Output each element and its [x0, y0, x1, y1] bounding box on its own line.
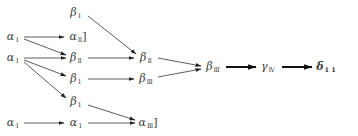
node-subscript: Ⅲ — [147, 78, 153, 86]
node-symbol: δ — [316, 60, 323, 73]
diagram-node: β1 — [70, 96, 82, 109]
diagram-node: α1 — [70, 117, 83, 130]
node-subscript: Ⅲ — [214, 66, 220, 74]
node-bracket: ] — [82, 30, 86, 43]
node-symbol: β — [70, 6, 76, 19]
node-symbol: β — [139, 72, 145, 85]
diagram-node: γⅣ — [261, 61, 275, 74]
diagram-node: βⅡ — [140, 52, 152, 65]
node-symbol: α — [7, 116, 14, 129]
diagram-node: α1 — [7, 52, 20, 65]
node-symbol: α — [138, 116, 145, 129]
diagram-node: αⅡ] — [69, 31, 86, 44]
diagram-node: δ1 1 — [316, 61, 336, 74]
node-subscript: 1 — [78, 78, 82, 86]
diagram-node: β1 — [70, 73, 82, 86]
edge-arrow — [88, 105, 135, 120]
node-subscript: 1 — [78, 122, 82, 130]
node-symbol: β — [70, 72, 76, 85]
node-subscript: 1 — [78, 12, 82, 20]
node-subscript: Ⅳ — [269, 66, 276, 74]
node-subscript: Ⅱ — [147, 57, 151, 65]
node-symbol: α — [70, 116, 77, 129]
edge-arrow — [158, 69, 201, 77]
node-symbol: β — [70, 51, 76, 64]
node-subscript: Ⅱ — [77, 57, 81, 65]
node-symbol: γ — [261, 60, 268, 73]
edge-arrow — [88, 16, 136, 54]
node-subscript: 1 — [78, 101, 82, 109]
diagram-node: βⅢ — [139, 73, 153, 86]
diagram-node: αⅢ] — [138, 117, 157, 130]
diagram-node: βⅡ — [70, 52, 82, 65]
edge-arrow — [158, 58, 201, 66]
node-subscript: 1 1 — [325, 66, 336, 74]
edge-arrow — [24, 39, 66, 55]
node-subscript: 1 — [15, 36, 19, 44]
diagram-node: α1 — [7, 31, 20, 44]
diagram-node: β1 — [70, 7, 82, 20]
node-symbol: α — [7, 51, 14, 64]
node-symbol: β — [70, 95, 76, 108]
edge-arrow — [24, 62, 66, 98]
node-symbol: β — [206, 60, 212, 73]
node-symbol: α — [69, 30, 76, 43]
node-symbol: α — [7, 30, 14, 43]
node-subscript: 1 — [15, 122, 19, 130]
diagram-node: βⅢ — [206, 61, 220, 74]
node-bracket: ] — [153, 116, 157, 129]
node-subscript: 1 — [15, 57, 19, 65]
node-symbol: β — [140, 51, 146, 64]
edge-arrow — [24, 60, 66, 76]
diagram-node: α1 — [7, 117, 20, 130]
diagram-edges — [0, 0, 358, 136]
